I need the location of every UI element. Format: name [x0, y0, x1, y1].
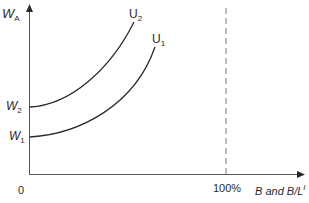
indifference-diagram	[0, 0, 309, 203]
curve-u2	[30, 22, 134, 107]
y-axis-arrow-icon	[26, 4, 33, 12]
curve-u1	[30, 47, 155, 137]
hundred-percent-label: 100%	[213, 182, 241, 194]
u1-label: U1	[152, 33, 165, 50]
origin-label: 0	[18, 184, 24, 196]
x-axis-arrow-icon	[297, 171, 305, 178]
y-axis-label: WA	[2, 8, 20, 25]
x-axis-label: B and B/LI	[255, 182, 306, 197]
w2-label: W2	[6, 100, 22, 117]
w1-label: W1	[9, 130, 25, 147]
u2-label: U2	[129, 8, 142, 25]
